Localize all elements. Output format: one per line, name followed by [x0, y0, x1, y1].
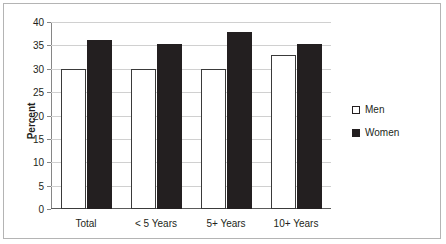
chart-frame: Percent 0510152025303540Total< 5 Years5+…	[3, 3, 441, 239]
bar-group: 10+ Years	[261, 22, 331, 209]
y-tick-label: 20	[33, 110, 44, 121]
legend-swatch-icon	[352, 106, 360, 114]
plot-area: 0510152025303540Total< 5 Years5+ Years10…	[51, 22, 331, 209]
y-tick-label: 25	[33, 87, 44, 98]
bar-men	[61, 69, 86, 209]
y-tick-mark	[47, 209, 51, 210]
bar-men	[201, 69, 226, 209]
bar-men	[271, 55, 296, 209]
bar-group: < 5 Years	[121, 22, 191, 209]
legend-item-women[interactable]: Women	[352, 127, 399, 138]
y-tick-label: 40	[33, 17, 44, 28]
bar-group: Total	[51, 22, 121, 209]
x-tick-label: 5+ Years	[191, 218, 261, 229]
y-tick-label: 30	[33, 63, 44, 74]
y-tick-label: 10	[33, 157, 44, 168]
y-tick-label: 0	[38, 204, 44, 215]
bar-women	[87, 40, 112, 209]
legend-label: Women	[365, 127, 399, 138]
y-tick-label: 15	[33, 133, 44, 144]
bar-women	[227, 32, 252, 209]
legend-swatch-icon	[352, 129, 360, 137]
bar-women	[157, 44, 182, 209]
bar-group: 5+ Years	[191, 22, 261, 209]
x-tick-label: Total	[51, 218, 121, 229]
x-tick-label: < 5 Years	[121, 218, 191, 229]
bar-men	[131, 69, 156, 209]
y-tick-label: 35	[33, 40, 44, 51]
x-tick-label: 10+ Years	[261, 218, 331, 229]
bar-women	[297, 44, 322, 209]
legend-item-men[interactable]: Men	[352, 104, 399, 115]
legend-label: Men	[365, 104, 384, 115]
chart-legend: MenWomen	[352, 104, 399, 150]
y-tick-label: 5	[38, 180, 44, 191]
